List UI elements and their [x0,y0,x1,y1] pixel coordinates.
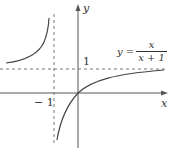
function-graph: y x − 1 1 y = x x + 1 [0,0,174,148]
curve-right-branch [57,70,164,140]
curve-left-branch [6,18,49,63]
y-axis-label: y [83,3,89,14]
graph-svg [0,0,174,148]
y-axis-arrow-icon [76,4,81,11]
x-axis-label: x [161,98,167,109]
equation-lhs: y = [117,46,134,57]
equation-fraction: x x + 1 [137,40,166,63]
x-axis-arrow-icon [161,91,168,96]
equation-numerator: x [148,40,156,50]
equation-label: y = x x + 1 [117,40,166,63]
tick-label-one: 1 [83,56,90,67]
equation-denominator: x + 1 [137,53,166,63]
tick-label-minus-one: − 1 [34,97,54,108]
